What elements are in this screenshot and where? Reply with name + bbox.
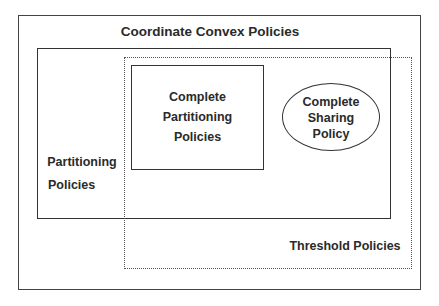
partitioning-label-line2: Policies [48, 175, 108, 195]
complete-partitioning-line2: Partitioning [131, 107, 264, 127]
coordinate-convex-label: Coordinate Convex Policies [110, 22, 310, 42]
complete-sharing-line3: Policy [282, 124, 380, 144]
complete-partitioning-line1: Complete [131, 87, 264, 107]
complete-partitioning-line3: Policies [131, 127, 264, 147]
partitioning-label-line1: Partitioning [42, 152, 122, 172]
threshold-label: Threshold Policies [285, 236, 405, 256]
